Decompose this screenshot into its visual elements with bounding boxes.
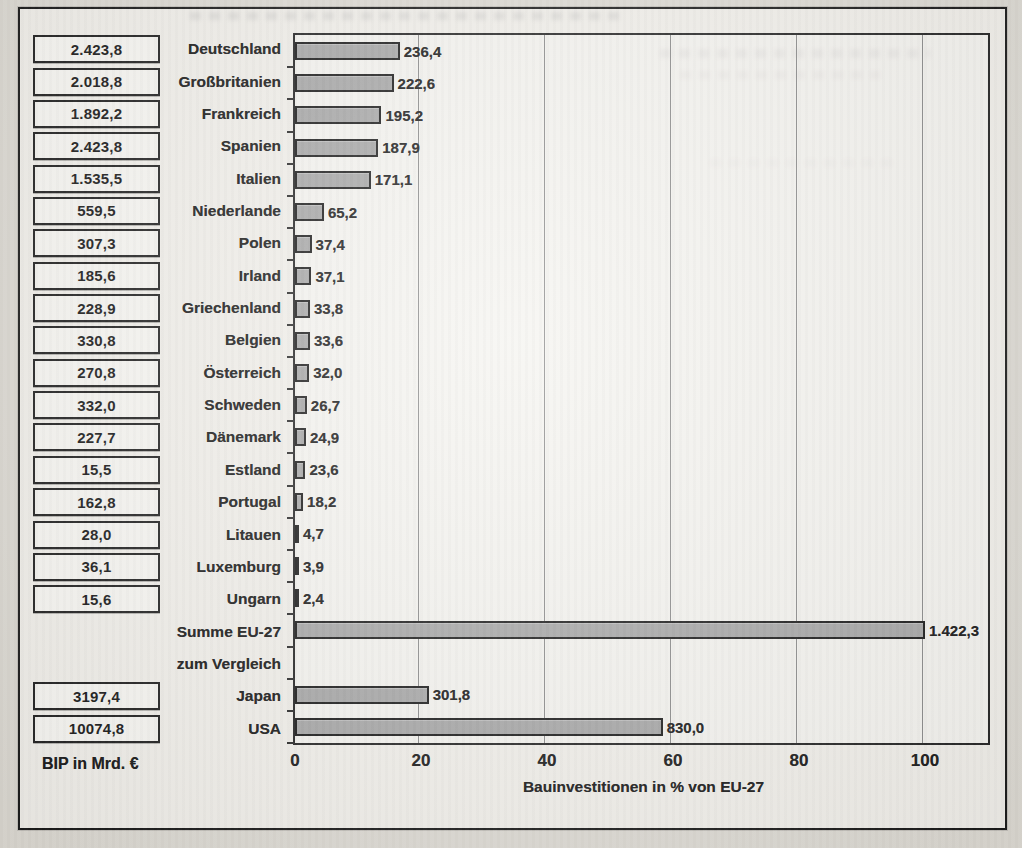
bip-box: 162,8 xyxy=(33,488,160,516)
bar xyxy=(295,589,299,607)
bar-row: 2,4 xyxy=(295,582,988,614)
x-tick-label-60: 60 xyxy=(664,751,683,771)
country-label: Ungarn xyxy=(227,590,281,608)
label-slot: Irland xyxy=(160,260,293,292)
bar-value: 37,4 xyxy=(316,236,345,253)
chart-frame: 2.423,82.018,81.892,22.423,81.535,5559,5… xyxy=(18,7,1007,830)
bar-value: 2,4 xyxy=(303,590,324,607)
bar-row: 301,8 xyxy=(295,679,988,711)
bar xyxy=(295,557,299,575)
label-slot: Summe EU-27 xyxy=(160,615,293,647)
bar-row: 1.422,3 xyxy=(295,614,988,646)
bip-value-column: 2.423,82.018,81.892,22.423,81.535,5559,5… xyxy=(33,33,160,745)
country-label: Belgien xyxy=(225,331,281,349)
country-label: Österreich xyxy=(203,364,281,382)
bip-box: 36,1 xyxy=(33,553,160,581)
bip-slot: 228,9 xyxy=(33,292,160,324)
bar-row: 171,1 xyxy=(295,164,988,196)
bar-value: 830,0 xyxy=(667,719,705,736)
country-label: Griechenland xyxy=(182,299,281,317)
label-slot: Polen xyxy=(160,227,293,259)
bar xyxy=(295,332,310,350)
country-label-column: DeutschlandGroßbritanienFrankreichSpanie… xyxy=(160,33,293,745)
bar xyxy=(295,267,311,285)
bar-value: 195,2 xyxy=(385,107,423,124)
bar-value: 65,2 xyxy=(328,204,357,221)
bip-slot: 332,0 xyxy=(33,389,160,421)
bip-box: 332,0 xyxy=(33,391,160,419)
bip-slot: 227,7 xyxy=(33,421,160,453)
bip-box: 10074,8 xyxy=(33,715,160,743)
label-slot: Österreich xyxy=(160,357,293,389)
country-label: Spanien xyxy=(221,137,281,155)
bar-value: 18,2 xyxy=(307,493,336,510)
bip-slot: 330,8 xyxy=(33,324,160,356)
scan-bleed-artifact xyxy=(190,12,620,20)
label-slot: Dänemark xyxy=(160,421,293,453)
label-slot: Niederlande xyxy=(160,195,293,227)
country-label: zum Vergleich xyxy=(177,655,281,673)
bar-value: 1.422,3 xyxy=(929,622,979,639)
bip-box: 227,7 xyxy=(33,423,160,451)
bip-slot: 270,8 xyxy=(33,357,160,389)
bar-value: 23,6 xyxy=(309,461,338,478)
bip-slot: 307,3 xyxy=(33,227,160,259)
bar xyxy=(295,203,324,221)
country-label: Irland xyxy=(239,267,281,285)
bar-value: 222,6 xyxy=(398,75,436,92)
bip-box: 3197,4 xyxy=(33,682,160,710)
label-slot: Spanien xyxy=(160,130,293,162)
bip-slot: 28,0 xyxy=(33,518,160,550)
label-slot: Frankreich xyxy=(160,98,293,130)
bip-box: 559,5 xyxy=(33,197,160,225)
bar xyxy=(295,428,306,446)
label-slot: Litauen xyxy=(160,518,293,550)
bar-value: 24,9 xyxy=(310,429,339,446)
label-slot: Ungarn xyxy=(160,583,293,615)
bar-row: 23,6 xyxy=(295,453,988,485)
bar-value: 301,8 xyxy=(433,686,471,703)
bip-slot: 15,6 xyxy=(33,583,160,615)
bar-row: 222,6 xyxy=(295,67,988,99)
bar xyxy=(295,686,429,704)
bip-box: 2.423,8 xyxy=(33,35,160,63)
bip-slot: 2.423,8 xyxy=(33,33,160,65)
bar-value: 33,6 xyxy=(314,332,343,349)
bar-value: 33,8 xyxy=(314,300,343,317)
bar-row: 236,4 xyxy=(295,35,988,67)
country-label: USA xyxy=(248,720,281,738)
country-label: Italien xyxy=(236,170,281,188)
bip-box: 185,6 xyxy=(33,262,160,290)
bar-value: 37,1 xyxy=(315,268,344,285)
country-label: Schweden xyxy=(204,396,281,414)
label-slot: USA xyxy=(160,713,293,745)
x-tick-label-0: 0 xyxy=(290,751,299,771)
bip-box: 2.423,8 xyxy=(33,132,160,160)
bip-slot: 3197,4 xyxy=(33,680,160,712)
bar xyxy=(295,139,378,157)
bip-slot xyxy=(33,615,160,647)
x-tick-label-20: 20 xyxy=(412,751,431,771)
bar-row: 24,9 xyxy=(295,421,988,453)
bar xyxy=(295,364,309,382)
bar xyxy=(295,106,381,124)
x-tick-label-80: 80 xyxy=(790,751,809,771)
bip-slot: 162,8 xyxy=(33,486,160,518)
country-label: Japan xyxy=(236,687,281,705)
bar-row: 187,9 xyxy=(295,132,988,164)
bip-box: 28,0 xyxy=(33,521,160,549)
country-label: Polen xyxy=(239,234,281,252)
bar-row: 26,7 xyxy=(295,389,988,421)
bip-slot xyxy=(33,648,160,680)
bar-row: 32,0 xyxy=(295,357,988,389)
bar xyxy=(295,300,310,318)
bar-row: 195,2 xyxy=(295,99,988,131)
x-axis-tick-labels: 020406080100 xyxy=(295,751,992,773)
bar xyxy=(295,74,394,92)
label-slot: Italien xyxy=(160,162,293,194)
bip-slot: 10074,8 xyxy=(33,713,160,745)
country-label: Summe EU-27 xyxy=(177,623,281,641)
bar-value: 187,9 xyxy=(382,139,420,156)
bar xyxy=(295,396,307,414)
x-axis-title: Bauinvestitionen in % von EU-27 xyxy=(295,778,992,796)
